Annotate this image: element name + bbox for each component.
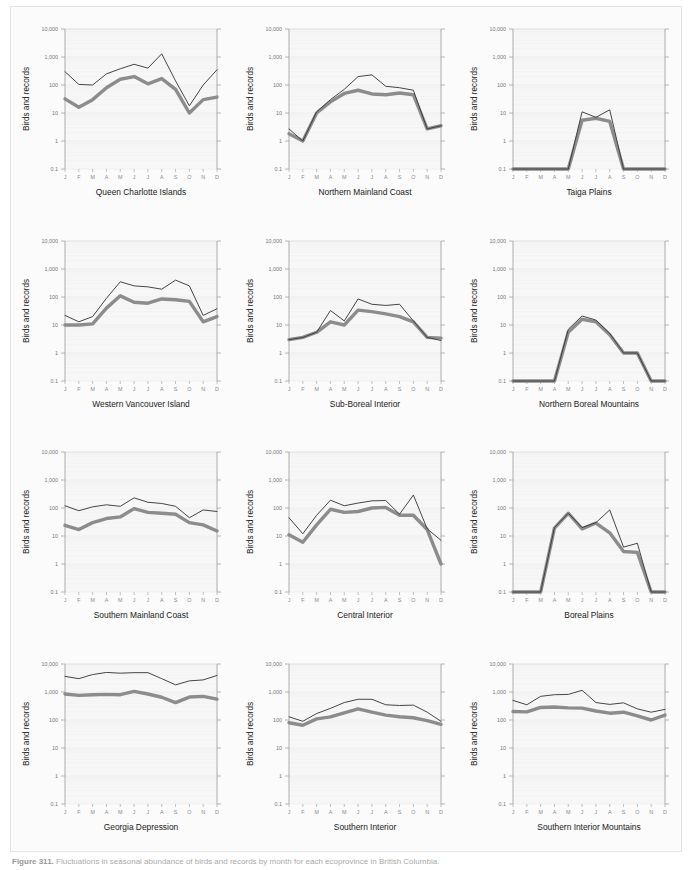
x-tick-label: D bbox=[215, 809, 219, 815]
y-tick-label: 10,000 bbox=[42, 26, 59, 32]
x-tick-label: D bbox=[439, 809, 443, 815]
x-tick-label: A bbox=[384, 174, 388, 180]
x-tick-label: M bbox=[538, 174, 543, 180]
figure-caption: Figure 311. Fluctuations in seasonal abu… bbox=[12, 856, 680, 870]
x-tick-label: J bbox=[595, 809, 598, 815]
y-tick-label: 0.1 bbox=[275, 801, 283, 807]
x-tick-label: M bbox=[314, 174, 319, 180]
x-tick-label: A bbox=[329, 597, 333, 603]
x-tick-label: A bbox=[608, 174, 612, 180]
y-tick-label: 10 bbox=[52, 322, 58, 328]
x-tick-label: A bbox=[329, 174, 333, 180]
y-tick-label: 0.1 bbox=[51, 166, 59, 172]
x-tick-label: A bbox=[329, 386, 333, 392]
y-tick-label: 10 bbox=[276, 533, 282, 539]
x-tick-label: M bbox=[566, 809, 571, 815]
x-tick-label: F bbox=[525, 597, 529, 603]
y-tick-label: 10 bbox=[276, 745, 282, 751]
x-axis: JFMAMJJASOND bbox=[512, 804, 667, 815]
y-tick-label: 100 bbox=[273, 82, 282, 88]
x-tick-label: A bbox=[105, 809, 109, 815]
x-tick-label: M bbox=[314, 597, 319, 603]
x-tick-label: J bbox=[64, 174, 67, 180]
y-tick-label: 1,000 bbox=[269, 266, 283, 272]
x-tick-label: J bbox=[64, 597, 67, 603]
y-tick-label: 0.1 bbox=[499, 166, 507, 172]
y-tick-label: 0.1 bbox=[275, 589, 283, 595]
x-tick-label: J bbox=[512, 174, 515, 180]
x-tick-label: A bbox=[553, 386, 557, 392]
x-tick-label: M bbox=[566, 597, 571, 603]
y-tick-label: 1 bbox=[503, 350, 506, 356]
x-tick-label: M bbox=[342, 809, 347, 815]
x-tick-label: J bbox=[581, 809, 584, 815]
x-tick-label: J bbox=[288, 386, 291, 392]
x-tick-label: O bbox=[187, 386, 191, 392]
x-tick-label: F bbox=[77, 386, 81, 392]
y-tick-label: 10,000 bbox=[490, 238, 507, 244]
x-tick-label: A bbox=[384, 386, 388, 392]
x-tick-label: F bbox=[301, 174, 305, 180]
x-tick-label: M bbox=[118, 597, 123, 603]
x-tick-label: M bbox=[342, 174, 347, 180]
x-tick-label: N bbox=[201, 174, 205, 180]
y-tick-label: 1 bbox=[279, 561, 282, 567]
y-tick-label: 1,000 bbox=[493, 477, 507, 483]
x-tick-label: S bbox=[398, 809, 402, 815]
chart-panel: 10,0001,0001001010.1JFMAMJJASONDBirds an… bbox=[459, 7, 683, 219]
x-tick-label: S bbox=[622, 174, 626, 180]
y-tick-label: 10 bbox=[276, 322, 282, 328]
x-tick-label: M bbox=[538, 597, 543, 603]
x-tick-label: J bbox=[64, 386, 67, 392]
x-tick-label: F bbox=[301, 809, 305, 815]
y-axis-label: Birds and records bbox=[470, 67, 479, 131]
x-tick-label: F bbox=[525, 174, 529, 180]
x-tick-label: A bbox=[553, 174, 557, 180]
x-tick-label: O bbox=[411, 386, 415, 392]
caption-number: Figure 311. bbox=[12, 857, 54, 866]
y-tick-label: 1 bbox=[55, 350, 58, 356]
y-axis-label: Birds and records bbox=[246, 67, 255, 131]
y-tick-label: 100 bbox=[497, 505, 506, 511]
x-tick-label: S bbox=[622, 809, 626, 815]
x-tick-label: A bbox=[105, 597, 109, 603]
chart-title: Sub-Boreal Interior bbox=[330, 399, 401, 409]
y-tick-label: 0.1 bbox=[499, 378, 507, 384]
small-multiples-grid: 10,0001,0001001010.1JFMAMJJASONDBirds an… bbox=[11, 7, 683, 853]
x-tick-label: N bbox=[425, 174, 429, 180]
x-tick-label: D bbox=[439, 597, 443, 603]
y-tick-label: 1,000 bbox=[45, 266, 59, 272]
y-axis-label: Birds and records bbox=[22, 278, 31, 342]
x-tick-label: O bbox=[635, 597, 639, 603]
x-tick-label: A bbox=[105, 174, 109, 180]
y-tick-label: 1,000 bbox=[45, 54, 59, 60]
y-tick-label: 10 bbox=[276, 110, 282, 116]
y-tick-label: 10 bbox=[500, 745, 506, 751]
y-tick-label: 10,000 bbox=[42, 449, 59, 455]
x-tick-label: D bbox=[439, 174, 443, 180]
y-tick-label: 0.1 bbox=[499, 589, 507, 595]
x-tick-label: J bbox=[357, 386, 360, 392]
x-tick-label: J bbox=[595, 174, 598, 180]
y-axis-label: Birds and records bbox=[246, 278, 255, 342]
x-tick-label: M bbox=[538, 809, 543, 815]
x-tick-label: J bbox=[357, 597, 360, 603]
x-tick-label: A bbox=[329, 809, 333, 815]
y-tick-label: 10 bbox=[52, 533, 58, 539]
x-tick-label: A bbox=[384, 597, 388, 603]
y-tick-label: 1 bbox=[279, 138, 282, 144]
x-tick-label: S bbox=[174, 597, 178, 603]
chart-panel: 10,0001,0001001010.1JFMAMJJASONDBirds an… bbox=[235, 430, 459, 642]
x-tick-label: D bbox=[663, 386, 667, 392]
x-tick-label: D bbox=[439, 386, 443, 392]
y-tick-label: 100 bbox=[273, 505, 282, 511]
chart-panel: 10,0001,0001001010.1JFMAMJJASONDBirds an… bbox=[235, 642, 459, 854]
x-axis: JFMAMJJASOND bbox=[288, 381, 443, 392]
x-axis: JFMAMJJASOND bbox=[288, 592, 443, 603]
x-tick-label: D bbox=[663, 809, 667, 815]
chart-panel: 10,0001,0001001010.1JFMAMJJASONDBirds an… bbox=[11, 430, 235, 642]
x-tick-label: F bbox=[301, 597, 305, 603]
x-tick-label: J bbox=[581, 597, 584, 603]
y-tick-label: 0.1 bbox=[51, 801, 59, 807]
plot-background bbox=[289, 664, 441, 804]
